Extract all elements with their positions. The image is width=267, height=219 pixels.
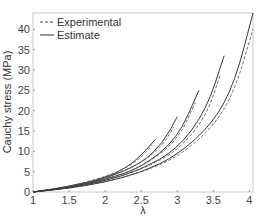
x-tick-label: 4 [246,194,252,206]
y-tick-label: 10 [18,145,30,157]
x-tick-label: 1.5 [61,194,76,206]
chart: 11.522.533.540510152025303540 Experiment… [0,0,267,219]
y-tick-label: 15 [18,125,30,137]
y-tick-label: 0 [24,186,30,198]
x-tick-label: 3.5 [206,194,221,206]
y-tick-label: 35 [18,44,30,56]
y-tick-label: 20 [18,105,30,117]
legend-estimate: Estimate [57,29,100,41]
x-tick-label: 1 [30,194,36,206]
y-tick-label: 40 [18,23,30,35]
x-tick-label: 2 [102,194,108,206]
x-tick-label: 3 [174,194,180,206]
y-tick-label: 30 [18,64,30,76]
y-axis-label: Cauchy stress (MPa) [1,51,13,154]
legend-experimental: Experimental [57,16,121,28]
y-tick-label: 5 [24,166,30,178]
x-axis-label: λ [140,204,146,216]
y-tick-label: 25 [18,84,30,96]
